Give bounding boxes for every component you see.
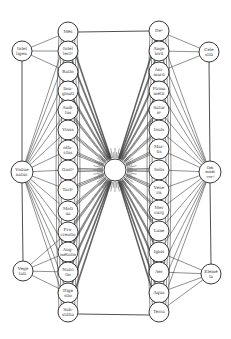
microcosm-macrocosm-diagram: MēsIntellectꝰRatioIma-ginatiAudi-tusVisu… — [0, 0, 231, 339]
left-node-L12: Aug-mētatio — [58, 242, 78, 262]
side-node-SL1: Intelligen. — [12, 41, 32, 61]
node-label: stātia — [62, 312, 74, 317]
sun-link-line — [74, 119, 107, 161]
right-node-R10: Mercurij — [149, 200, 169, 220]
right-vertical-line — [210, 183, 211, 264]
link-line — [32, 256, 59, 267]
link-line — [29, 118, 62, 163]
node-label: lectꝰ — [63, 51, 73, 56]
node-label: Lune — [154, 228, 165, 233]
link-line — [31, 36, 59, 47]
side-node-SR3: Elemēta — [201, 264, 221, 284]
left-node-L3: Ratio — [58, 62, 78, 82]
right-node-R12: Ignis — [149, 242, 169, 262]
sun-ray — [113, 182, 114, 188]
node-label: mētū — [154, 91, 165, 96]
sun-link-line — [126, 153, 150, 165]
node-label: stiū — [205, 52, 213, 57]
right-node-R6: Iouis — [149, 120, 169, 140]
link-line — [33, 170, 58, 171]
left-node-L9: Tactꝰ — [58, 180, 78, 200]
link-line — [32, 154, 59, 167]
node-label: Tactꝰ — [63, 187, 74, 192]
node-label: stio — [64, 293, 72, 298]
left-node-L6: Visus — [58, 120, 78, 140]
node-label: Deꝰ — [155, 28, 163, 33]
sun-ray — [116, 152, 117, 158]
right-node-R1: Deꝰ — [149, 21, 169, 41]
link-line — [164, 182, 205, 263]
link-line — [168, 256, 202, 270]
right-node-R11: Lune — [149, 221, 169, 241]
node-label: curij — [154, 210, 164, 215]
bottom-connector-line — [78, 314, 149, 315]
node-label: tus — [65, 110, 72, 115]
link-line — [168, 35, 200, 48]
link-line — [167, 179, 201, 204]
left-node-L13: Nutritio — [58, 262, 78, 282]
node-label: tati. — [19, 271, 28, 276]
top-connector-line — [78, 31, 149, 32]
node-label: ctus — [64, 150, 73, 155]
link-line — [32, 275, 59, 288]
node-label: Ignis — [154, 249, 165, 254]
right-node-R4: Firmamētū — [149, 81, 169, 101]
link-line — [169, 170, 199, 171]
node-label: nꝰ — [157, 110, 162, 115]
right-node-R3: Ani-marū — [149, 62, 169, 82]
node-label: ta — [209, 274, 214, 279]
right-node-R13: Aer — [149, 262, 169, 282]
left-node-L15: Sub-stātia — [58, 302, 78, 322]
sun-link-line — [126, 174, 150, 184]
right-node-R5: Saturnꝰ — [149, 100, 169, 120]
link-line — [169, 51, 199, 52]
right-node-R2: Angelorū — [149, 41, 169, 61]
node-label: ris — [156, 190, 162, 195]
sun-ray — [113, 152, 114, 158]
left-node-L2: Intellectꝰ — [58, 41, 78, 61]
node-label: ginati — [62, 91, 75, 96]
side-node-SL2: Vnāuenatur. — [11, 161, 33, 183]
node-label: Aqua — [153, 290, 165, 295]
side-node-SR1: Celestiū — [199, 42, 219, 62]
link-line — [164, 81, 205, 162]
node-label: ligen. — [16, 51, 28, 56]
link-line — [169, 272, 201, 273]
sun-disc — [104, 159, 126, 181]
left-node-L14: Digestio — [58, 283, 78, 303]
node-label: natur. — [16, 172, 28, 177]
node-label: Iouis — [154, 127, 164, 132]
right-node-R8: Solis — [149, 160, 169, 180]
right-vertical-line — [209, 62, 210, 161]
link-line — [167, 280, 203, 306]
link-line — [168, 176, 199, 187]
node-label: tio — [65, 272, 71, 277]
side-node-SL3: Vegetati. — [13, 261, 33, 281]
left-node-L8: Gustꝰ — [58, 160, 78, 180]
node-label: marū — [153, 72, 164, 77]
node-label: Solis — [154, 167, 164, 172]
link-line — [33, 271, 58, 272]
sun-ray — [116, 182, 117, 188]
node-label: mētatio — [60, 252, 77, 257]
node-label: Terra — [153, 309, 165, 314]
left-node-L11: Pro-creatio — [58, 222, 78, 242]
link-line — [25, 182, 64, 302]
node-label: creatio — [61, 232, 76, 237]
node-label: Gustꝰ — [62, 167, 74, 172]
node-label: corꝰ — [206, 174, 214, 179]
node-label: Visus — [61, 127, 73, 132]
left-node-L5: Audi-tus — [58, 100, 78, 120]
link-line — [168, 277, 201, 289]
left-vertical-line — [22, 183, 23, 261]
right-node-R9: Veneris — [149, 180, 169, 200]
link-line — [168, 56, 199, 69]
node-label: Ratio — [62, 69, 74, 74]
node-label: Aer — [154, 269, 163, 274]
node-label: Mēs — [64, 29, 73, 34]
link-line — [32, 176, 58, 186]
left-node-L10: Motiua — [58, 201, 78, 221]
right-node-R14: Aqua — [149, 283, 169, 303]
link-line — [25, 42, 64, 162]
left-node-L4: Ima-ginati — [58, 81, 78, 101]
